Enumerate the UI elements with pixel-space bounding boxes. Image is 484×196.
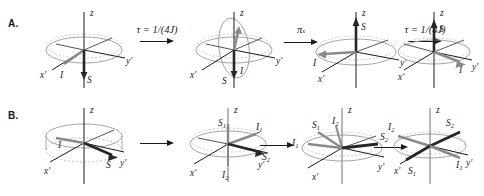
vector-S1-label: S1 xyxy=(408,166,416,177)
panel-b: B. z y' x' I S xyxy=(0,98,484,196)
vector-S1-label: S1 xyxy=(218,118,226,129)
z-axis-label: z xyxy=(439,8,444,18)
z-axis-label: z xyxy=(89,105,94,115)
z-axis-label: z xyxy=(89,8,94,18)
state-b4: z y' x' I2 S2 S1 I1 xyxy=(372,98,484,196)
in-plane-line-2 xyxy=(56,44,84,50)
vector-I1-label: I1 xyxy=(455,160,462,171)
xprime-axis-label: x' xyxy=(393,166,401,176)
z-axis-label: z xyxy=(347,105,352,115)
xprime-axis xyxy=(308,148,342,168)
xprime-axis xyxy=(404,52,434,70)
arrow-b1-glyph xyxy=(140,140,174,147)
xprime-axis-label: x' xyxy=(189,168,197,178)
in-plane-line xyxy=(434,40,464,52)
xprime-axis-label: x' xyxy=(39,70,47,80)
vector-S-label: S xyxy=(222,76,227,86)
spin-vector-figure: A. z xyxy=(0,0,484,196)
vector-I2-label: I2 xyxy=(331,116,339,127)
vector-I2-label: I2 xyxy=(387,122,395,133)
xprime-axis xyxy=(50,143,84,162)
panel-a: A. z xyxy=(0,0,484,98)
vector-I xyxy=(324,52,356,54)
state-a4: z y' x' S I xyxy=(372,0,484,98)
vector-I xyxy=(234,32,238,50)
panel-a-label: A. xyxy=(8,18,18,29)
z-axis-label: z xyxy=(361,8,366,18)
state-a1: z y' x' I S xyxy=(28,0,140,98)
yprime-axis-label: y' xyxy=(119,158,127,168)
in-plane-line-2 xyxy=(198,138,228,144)
state-a1-svg: z y' x' I S xyxy=(28,0,140,98)
vector-S-label: S xyxy=(361,22,366,32)
xprime-axis-label: x' xyxy=(311,172,319,182)
state-b4-svg: z y' x' I2 S2 S1 I1 xyxy=(372,98,484,196)
vector-S-head xyxy=(431,19,438,28)
z-axis-label: z xyxy=(435,105,440,115)
vector-I2 xyxy=(398,136,430,146)
xprime-axis xyxy=(194,144,228,164)
z-axis-label: z xyxy=(239,8,244,18)
yprime-axis xyxy=(84,50,125,58)
in-plane-line-2 xyxy=(206,44,234,50)
vector-I-label: I xyxy=(312,58,317,68)
xprime-axis xyxy=(202,50,234,70)
vector-S-head xyxy=(353,17,360,26)
vector-S-label: S xyxy=(439,24,444,34)
z-axis-label: z xyxy=(233,105,238,115)
vector-I1-label: I1 xyxy=(291,138,298,149)
yprime-axis xyxy=(234,50,275,58)
vector-I-label: I xyxy=(57,140,62,150)
vector-I-label: I xyxy=(458,65,463,75)
state-b1: z y' x' I S xyxy=(28,98,140,196)
yprime-axis-label: y' xyxy=(471,62,479,72)
in-plane-line xyxy=(84,38,112,50)
vector-S2-label: S2 xyxy=(446,118,455,129)
xprime-axis-label: x' xyxy=(43,166,51,176)
in-plane-line-2 xyxy=(404,44,434,52)
vector-S-label: S xyxy=(106,160,111,170)
yprime-axis-label: y' xyxy=(465,158,473,168)
arrow-a1-glyph xyxy=(140,38,174,45)
vector-I-label: I xyxy=(59,70,64,80)
state-a4-svg: z y' x' S I xyxy=(372,0,484,98)
vector-I-head xyxy=(235,26,242,34)
xprime-axis-label: x' xyxy=(397,72,405,82)
xprime-axis-label: x' xyxy=(317,74,325,84)
in-plane-line xyxy=(84,130,114,143)
vector-S1-label: S1 xyxy=(312,120,320,131)
xprime-axis-label: x' xyxy=(189,70,197,80)
vector-S xyxy=(84,143,112,155)
vector-I-head xyxy=(317,51,326,59)
vector-S-label: S xyxy=(87,75,92,85)
panel-b-label: B. xyxy=(8,110,18,121)
state-b1-svg: z y' x' I S xyxy=(28,98,140,196)
